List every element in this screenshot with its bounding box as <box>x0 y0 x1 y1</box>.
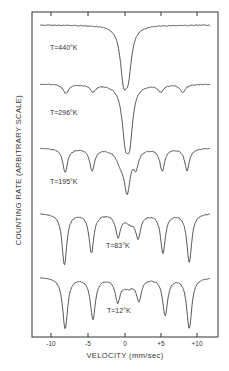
spectrum-12k <box>40 278 210 329</box>
mossbauer-spectra-figure: -10 -5 0 +5 +10 VELOCITY (mm/sec) COUNTI… <box>0 0 229 371</box>
spectrum-195k <box>40 148 210 194</box>
plot-frame <box>32 12 218 337</box>
spectra <box>40 25 210 329</box>
x-axis-ticks-bottom <box>51 333 197 337</box>
temp-label-440k: T=440°K <box>50 44 78 51</box>
tick-label: -10 <box>46 340 56 347</box>
temp-label-195k: T=195°K <box>50 178 78 185</box>
x-axis-ticks-top <box>51 12 197 16</box>
spectrum-440k <box>40 25 210 90</box>
x-tick-labels: -10 -5 0 +5 +10 <box>46 340 203 347</box>
x-axis-label: VELOCITY (mm/sec) <box>86 351 163 360</box>
tick-label: 0 <box>123 340 127 347</box>
spectrum-296k <box>40 84 210 154</box>
chart-canvas: -10 -5 0 +5 +10 VELOCITY (mm/sec) COUNTI… <box>0 0 229 371</box>
tick-label: +10 <box>191 340 202 347</box>
temp-label-83k: T=83°K <box>106 242 130 249</box>
spectrum-83k <box>40 214 210 265</box>
tick-label: +5 <box>157 340 165 347</box>
temp-label-12k: T=12°K <box>107 307 131 314</box>
tick-label: -5 <box>85 340 91 347</box>
y-axis-label: COUNTING RATE (ARBITRARY SCALE) <box>14 95 23 245</box>
temp-label-296k: T=296°K <box>50 109 78 116</box>
temperature-labels: T=440°K T=296°K T=195°K T=83°K T=12°K <box>50 44 131 314</box>
